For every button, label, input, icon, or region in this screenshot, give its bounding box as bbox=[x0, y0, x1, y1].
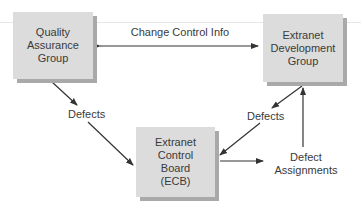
node-quality-assurance-group: Quality Assurance Group bbox=[13, 12, 93, 79]
defects-to-ecb-arrow bbox=[88, 122, 133, 165]
node-text: Extranet bbox=[271, 29, 336, 42]
label-defects-left: Defects bbox=[68, 108, 105, 121]
label-line: Assignments bbox=[273, 164, 339, 177]
label-defect-assignments: Defect Assignments bbox=[273, 151, 339, 177]
node-text: Extranet bbox=[155, 136, 196, 149]
defects-to-ecb-right-arrow bbox=[220, 123, 260, 155]
node-text: Group bbox=[27, 52, 79, 65]
node-text: Assurance bbox=[27, 39, 79, 52]
label-line: Defect bbox=[273, 151, 339, 164]
node-text: (ECB) bbox=[155, 175, 196, 188]
node-text: Quality bbox=[27, 26, 79, 39]
dev-defects-arrow bbox=[272, 86, 302, 108]
node-text: Development bbox=[271, 42, 336, 55]
node-text: Board bbox=[155, 162, 196, 175]
qa-defects-arrow bbox=[52, 82, 77, 105]
node-text: Group bbox=[271, 55, 336, 68]
label-defects-right: Defects bbox=[247, 110, 284, 123]
node-extranet-development-group: Extranet Development Group bbox=[263, 14, 343, 82]
node-extranet-control-board: Extranet Control Board (ECB) bbox=[136, 127, 215, 197]
node-text: Control bbox=[155, 149, 196, 162]
label-change-control-info: Change Control Info bbox=[130, 26, 230, 39]
